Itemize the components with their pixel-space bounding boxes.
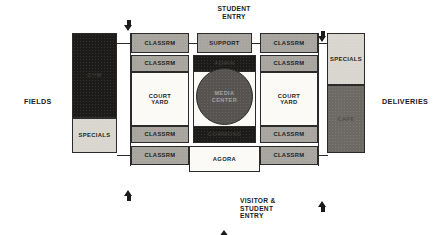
room-right-courtyard: COURT YARD [260, 72, 318, 126]
connector-right-top [318, 43, 328, 44]
connector-left-top [117, 43, 131, 44]
room-top-left-classrm-label: CLASSRM [144, 40, 175, 46]
room-row2-left-classrm: CLASSRM [131, 55, 189, 72]
connector-top-1 [189, 43, 197, 44]
block-right-specials-label: SPECIALS [330, 56, 362, 62]
room-row2-right-classrm-label: CLASSRM [273, 60, 304, 66]
entry-label-visitor-student-entry: VISITOR & STUDENT ENTRY [240, 197, 318, 220]
arrow-up-large-icon-bottom-center [216, 230, 233, 235]
room-top-support-label: SUPPORT [209, 40, 239, 46]
room-media-center-label: MEDIA CENTER [212, 90, 237, 103]
block-right-cafe: CAFE [327, 85, 365, 153]
room-top-support: SUPPORT [197, 33, 252, 53]
room-bottom-agora: AGORA [189, 146, 260, 172]
connector-left-bottom [117, 155, 131, 156]
arrow-down-icon-top-right [318, 31, 327, 42]
frame-left-edge [130, 33, 131, 166]
arrow-up-icon-bottom-left [124, 190, 133, 201]
room-row3-right-classrm-label: CLASSRM [273, 131, 304, 137]
room-center-bottom-band-label: COMMONS [208, 131, 241, 137]
room-center-top-band-label: ADMIN [214, 60, 235, 66]
room-bottom-agora-label: AGORA [213, 156, 236, 162]
room-top-right-classrm: CLASSRM [260, 33, 318, 53]
room-top-right-classrm-label: CLASSRM [273, 40, 304, 46]
room-bottom-left-classrm: CLASSRM [131, 146, 189, 165]
connector-right-bottom [318, 155, 328, 156]
block-left-specials-label: SPECIALS [79, 132, 111, 138]
block-left-specials: SPECIALS [72, 118, 117, 153]
entry-label-student-entry: STUDENT ENTRY [198, 5, 270, 20]
room-row2-right-classrm: CLASSRM [260, 55, 318, 72]
room-row3-left-classrm-label: CLASSRM [144, 131, 175, 137]
floor-plan-diagram: FIELDS DELIVERIES STUDENT ENTRY GYM SPEC… [0, 0, 445, 235]
room-center-bottom-band: COMMONS [193, 126, 256, 143]
room-left-courtyard-label: COURT YARD [149, 93, 171, 106]
block-right-cafe-label: CAFE [337, 116, 354, 122]
context-label-deliveries: DELIVERIES [382, 97, 428, 106]
arrow-up-icon-bottom-right [318, 201, 327, 212]
room-media-center: MEDIA CENTER [196, 68, 253, 125]
room-bottom-right-classrm-label: CLASSRM [273, 152, 304, 158]
room-left-courtyard: COURT YARD [131, 72, 189, 126]
room-top-left-classrm: CLASSRM [131, 33, 189, 53]
arrow-down-icon-top-left [124, 20, 133, 31]
room-row3-left-classrm: CLASSRM [131, 126, 189, 143]
frame-right-edge [318, 33, 319, 166]
room-right-courtyard-label: COURT YARD [278, 93, 300, 106]
block-left-gym: GYM [72, 33, 117, 118]
room-bottom-left-classrm-label: CLASSRM [144, 152, 175, 158]
block-left-gym-label: GYM [87, 72, 101, 78]
context-label-fields: FIELDS [24, 97, 52, 106]
room-bottom-right-classrm: CLASSRM [260, 146, 318, 165]
room-row2-left-classrm-label: CLASSRM [144, 60, 175, 66]
room-row3-right-classrm: CLASSRM [260, 126, 318, 143]
block-right-specials: SPECIALS [327, 33, 365, 85]
connector-top-2 [252, 43, 260, 44]
